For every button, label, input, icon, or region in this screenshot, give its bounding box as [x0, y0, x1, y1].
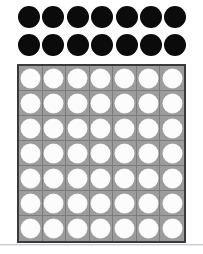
grid-cell[interactable]	[19, 116, 43, 141]
grid-cell[interactable]	[43, 91, 67, 116]
white-counter-icon[interactable]	[68, 219, 87, 238]
grid-cell[interactable]	[66, 116, 90, 141]
grid-cell[interactable]	[66, 141, 90, 166]
grid-cell[interactable]	[113, 116, 137, 141]
white-counter-icon[interactable]	[115, 194, 134, 213]
white-counter-icon[interactable]	[115, 94, 134, 113]
grid-cell[interactable]	[19, 191, 43, 216]
grid-cell[interactable]	[43, 166, 67, 191]
white-counter-icon[interactable]	[68, 169, 87, 188]
grid-cell[interactable]	[66, 216, 90, 241]
grid-cell[interactable]	[90, 66, 114, 91]
grid-cell[interactable]	[66, 166, 90, 191]
black-counter-icon[interactable]	[140, 34, 162, 56]
grid-cell[interactable]	[19, 141, 43, 166]
white-counter-icon[interactable]	[68, 144, 87, 163]
white-counter-icon[interactable]	[44, 194, 63, 213]
white-counter-icon[interactable]	[21, 219, 40, 238]
black-counter-icon[interactable]	[116, 6, 138, 28]
grid-cell[interactable]	[160, 116, 184, 141]
grid-cell[interactable]	[43, 66, 67, 91]
grid-cell[interactable]	[66, 91, 90, 116]
white-counter-icon[interactable]	[21, 94, 40, 113]
black-counter-icon[interactable]	[67, 6, 89, 28]
white-counter-icon[interactable]	[115, 169, 134, 188]
black-counter-icon[interactable]	[140, 6, 162, 28]
grid-cell[interactable]	[160, 166, 184, 191]
white-counter-icon[interactable]	[139, 219, 158, 238]
white-counter-icon[interactable]	[21, 144, 40, 163]
grid-cell[interactable]	[19, 166, 43, 191]
white-counter-icon[interactable]	[91, 144, 110, 163]
grid-cell[interactable]	[137, 116, 161, 141]
white-counter-icon[interactable]	[91, 94, 110, 113]
white-counter-icon[interactable]	[115, 69, 134, 88]
white-counter-icon[interactable]	[21, 169, 40, 188]
grid-cell[interactable]	[137, 166, 161, 191]
black-counter-icon[interactable]	[164, 34, 186, 56]
grid-cell[interactable]	[90, 116, 114, 141]
white-counter-icon[interactable]	[163, 194, 182, 213]
white-counter-icon[interactable]	[91, 194, 110, 213]
white-counter-icon[interactable]	[139, 69, 158, 88]
white-counter-icon[interactable]	[91, 69, 110, 88]
grid-cell[interactable]	[90, 166, 114, 191]
black-counter-icon[interactable]	[164, 6, 186, 28]
white-counter-icon[interactable]	[115, 119, 134, 138]
grid-cell[interactable]	[113, 166, 137, 191]
grid-cell[interactable]	[160, 216, 184, 241]
grid-cell[interactable]	[113, 66, 137, 91]
white-counter-icon[interactable]	[44, 144, 63, 163]
white-counter-icon[interactable]	[139, 169, 158, 188]
white-counter-icon[interactable]	[163, 69, 182, 88]
black-counter-icon[interactable]	[91, 6, 113, 28]
grid-cell[interactable]	[160, 66, 184, 91]
black-counter-icon[interactable]	[67, 34, 89, 56]
grid-cell[interactable]	[43, 191, 67, 216]
white-counter-icon[interactable]	[163, 94, 182, 113]
grid-cell[interactable]	[137, 191, 161, 216]
grid-cell[interactable]	[137, 141, 161, 166]
grid-cell[interactable]	[160, 91, 184, 116]
white-counter-icon[interactable]	[21, 69, 40, 88]
white-counter-icon[interactable]	[139, 144, 158, 163]
black-counter-icon[interactable]	[42, 34, 64, 56]
grid-cell[interactable]	[160, 191, 184, 216]
black-counter-icon[interactable]	[91, 34, 113, 56]
white-counter-icon[interactable]	[68, 119, 87, 138]
grid-cell[interactable]	[90, 191, 114, 216]
white-counter-icon[interactable]	[163, 169, 182, 188]
black-counter-icon[interactable]	[42, 6, 64, 28]
white-counter-icon[interactable]	[44, 69, 63, 88]
white-counter-icon[interactable]	[91, 169, 110, 188]
grid-cell[interactable]	[90, 216, 114, 241]
white-counter-icon[interactable]	[91, 119, 110, 138]
white-counter-icon[interactable]	[115, 219, 134, 238]
grid-cell[interactable]	[137, 66, 161, 91]
grid-cell[interactable]	[90, 141, 114, 166]
white-counter-icon[interactable]	[44, 169, 63, 188]
white-counter-icon[interactable]	[115, 144, 134, 163]
grid-cell[interactable]	[19, 91, 43, 116]
white-counter-icon[interactable]	[163, 119, 182, 138]
grid-cell[interactable]	[43, 116, 67, 141]
grid-cell[interactable]	[113, 216, 137, 241]
white-counter-icon[interactable]	[68, 94, 87, 113]
white-counter-icon[interactable]	[91, 219, 110, 238]
grid-cell[interactable]	[113, 191, 137, 216]
grid-cell[interactable]	[43, 141, 67, 166]
white-counter-icon[interactable]	[68, 194, 87, 213]
white-counter-icon[interactable]	[44, 94, 63, 113]
grid-cell[interactable]	[19, 216, 43, 241]
white-counter-icon[interactable]	[163, 144, 182, 163]
grid-cell[interactable]	[66, 191, 90, 216]
grid-cell[interactable]	[160, 141, 184, 166]
black-counter-icon[interactable]	[18, 34, 40, 56]
grid-cell[interactable]	[19, 66, 43, 91]
white-counter-icon[interactable]	[44, 119, 63, 138]
grid-cell[interactable]	[113, 141, 137, 166]
grid-cell[interactable]	[90, 91, 114, 116]
grid-cell[interactable]	[137, 91, 161, 116]
white-counter-icon[interactable]	[21, 194, 40, 213]
white-counter-icon[interactable]	[139, 119, 158, 138]
